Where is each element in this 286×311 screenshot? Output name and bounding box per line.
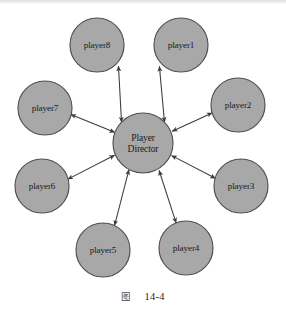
node-layer bbox=[15, 18, 268, 277]
node-player2[interactable] bbox=[211, 78, 265, 132]
edge-director-player7 bbox=[71, 115, 115, 133]
edge-director-player3 bbox=[172, 156, 216, 179]
star-topology-diagram bbox=[0, 0, 286, 311]
node-player8[interactable] bbox=[70, 18, 124, 72]
node-player1[interactable] bbox=[154, 18, 208, 72]
edge-director-player1 bbox=[159, 66, 164, 122]
edge-director-player2 bbox=[172, 113, 212, 131]
edge-director-player6 bbox=[68, 155, 115, 179]
node-player-director[interactable] bbox=[113, 113, 173, 173]
node-player3[interactable] bbox=[214, 159, 268, 213]
node-player6[interactable] bbox=[15, 159, 69, 213]
node-player7[interactable] bbox=[18, 81, 72, 135]
edge-director-player8 bbox=[119, 66, 122, 122]
node-player4[interactable] bbox=[159, 221, 213, 275]
figure-caption: 图 14-4 bbox=[0, 286, 286, 306]
edge-director-player4 bbox=[159, 171, 176, 223]
caption-label-cjk: 图 bbox=[121, 289, 131, 303]
node-player5[interactable] bbox=[76, 223, 130, 277]
figure-page: player8 player1 player7 player2 player6 … bbox=[0, 0, 286, 311]
edge-director-player5 bbox=[115, 170, 129, 226]
caption-figure-number: 14-4 bbox=[145, 291, 165, 302]
